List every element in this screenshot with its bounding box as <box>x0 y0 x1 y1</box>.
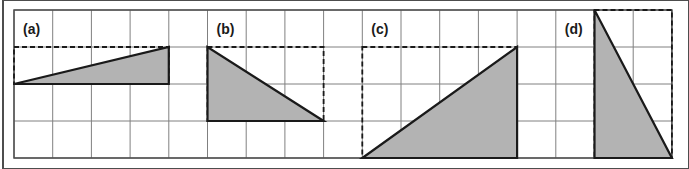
panel-label-b: (b) <box>217 21 235 37</box>
panel-label-d: (d) <box>565 21 583 37</box>
panel-label-a: (a) <box>23 21 40 37</box>
triangles-on-grid-figure: (a)(b)(c)(d) <box>0 0 689 169</box>
panel-label-c: (c) <box>371 21 388 37</box>
